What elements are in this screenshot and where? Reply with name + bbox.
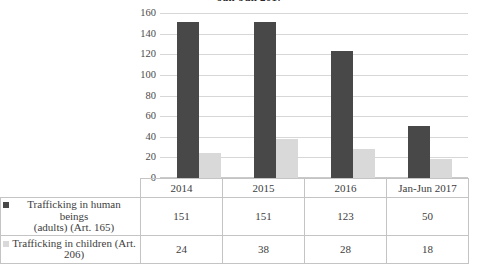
legend-label-adults-line2: (adults) (Art. 165) bbox=[34, 221, 114, 233]
bar-children-jan-jun-2017 bbox=[430, 159, 452, 178]
cell-adults-2014: 151 bbox=[141, 198, 223, 236]
bar-group-2014 bbox=[160, 13, 237, 178]
table-row: Trafficking in children (Art. 206) 24 38… bbox=[1, 235, 469, 263]
legend-label-children-line1: Trafficking in children (Art. bbox=[12, 237, 135, 249]
y-tick-label: 20 bbox=[126, 152, 156, 162]
table-header-jan-jun-2017: Jan-Jun 2017 bbox=[387, 179, 469, 198]
legend-label-adults-line1: Trafficking in human beings bbox=[27, 198, 121, 222]
legend-swatch-icon bbox=[3, 202, 9, 208]
table-header-2015: 2015 bbox=[223, 179, 305, 198]
bar-adults-2015 bbox=[254, 22, 276, 178]
bar-children-2016 bbox=[353, 149, 375, 178]
bar-group-2015 bbox=[237, 13, 314, 178]
legend-swatch-icon bbox=[3, 241, 9, 247]
table-header-2016: 2016 bbox=[305, 179, 387, 198]
y-tick-label: 80 bbox=[126, 91, 156, 101]
bar-adults-2014 bbox=[177, 22, 199, 178]
y-tick-label: 100 bbox=[126, 70, 156, 80]
cell-adults-2016: 123 bbox=[305, 198, 387, 236]
cell-children-2016: 28 bbox=[305, 235, 387, 263]
bar-children-2015 bbox=[276, 139, 298, 178]
table-header-row: 2014 2015 2016 Jan-Jun 2017 bbox=[1, 179, 469, 198]
cell-children-2014: 24 bbox=[141, 235, 223, 263]
y-tick-label: 140 bbox=[126, 29, 156, 39]
bar-adults-jan-jun-2017 bbox=[408, 126, 430, 178]
y-tick-label: 120 bbox=[126, 49, 156, 59]
legend-item-adults: Trafficking in human beings (adults) (Ar… bbox=[1, 198, 141, 236]
chart-title: Jan-Jun 2017 bbox=[150, 0, 350, 3]
table-corner-blank bbox=[1, 179, 141, 198]
bar-group-jan-jun-2017 bbox=[391, 13, 468, 178]
data-table-wrapper: 2014 2015 2016 Jan-Jun 2017 Trafficking … bbox=[0, 178, 469, 256]
legend-label-children-line2: 206) bbox=[64, 248, 84, 260]
y-tick-label: 160 bbox=[126, 8, 156, 18]
y-tick-label: 40 bbox=[126, 132, 156, 142]
cell-adults-2015: 151 bbox=[223, 198, 305, 236]
data-table: 2014 2015 2016 Jan-Jun 2017 Trafficking … bbox=[0, 178, 469, 264]
bar-adults-2016 bbox=[331, 51, 353, 178]
bar-group-2016 bbox=[314, 13, 391, 178]
cell-adults-jan-jun-2017: 50 bbox=[387, 198, 469, 236]
plot-area bbox=[160, 13, 468, 178]
table-row: Trafficking in human beings (adults) (Ar… bbox=[1, 198, 469, 236]
legend-item-children: Trafficking in children (Art. 206) bbox=[1, 235, 141, 263]
table-header-2014: 2014 bbox=[141, 179, 223, 198]
y-tick-label: 60 bbox=[126, 111, 156, 121]
cell-children-jan-jun-2017: 18 bbox=[387, 235, 469, 263]
bar-children-2014 bbox=[199, 153, 221, 178]
y-axis-labels: 160 140 120 100 80 60 40 20 0 bbox=[126, 13, 156, 178]
cell-children-2015: 38 bbox=[223, 235, 305, 263]
